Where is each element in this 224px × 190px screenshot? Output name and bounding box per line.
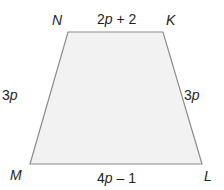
trapezoid-diagram: N K M L 2p + 2 3p 3p 4p – 1 bbox=[0, 0, 224, 190]
side-label-kl: 3p bbox=[184, 87, 200, 103]
vertex-label-m: M bbox=[10, 167, 22, 183]
side-nk-rest: + 2 bbox=[113, 11, 137, 27]
side-ml-rest: – 1 bbox=[113, 170, 137, 186]
side-label-ml: 4p – 1 bbox=[97, 170, 136, 186]
vertex-label-k: K bbox=[166, 12, 176, 28]
side-nm-coef: 3 bbox=[2, 87, 10, 103]
side-label-nm: 3p bbox=[2, 87, 18, 103]
side-nk-coef: 2 bbox=[97, 11, 105, 27]
vertex-label-l: L bbox=[204, 168, 212, 184]
side-kl-coef: 3 bbox=[184, 87, 192, 103]
side-nm-var: p bbox=[9, 87, 18, 103]
side-kl-var: p bbox=[191, 87, 200, 103]
side-ml-coef: 4 bbox=[97, 170, 105, 186]
vertex-label-n: N bbox=[52, 12, 63, 28]
side-nk-var: p bbox=[104, 11, 113, 27]
trapezoid-nklm bbox=[30, 32, 202, 164]
side-ml-var: p bbox=[104, 170, 113, 186]
side-label-nk: 2p + 2 bbox=[97, 11, 137, 27]
